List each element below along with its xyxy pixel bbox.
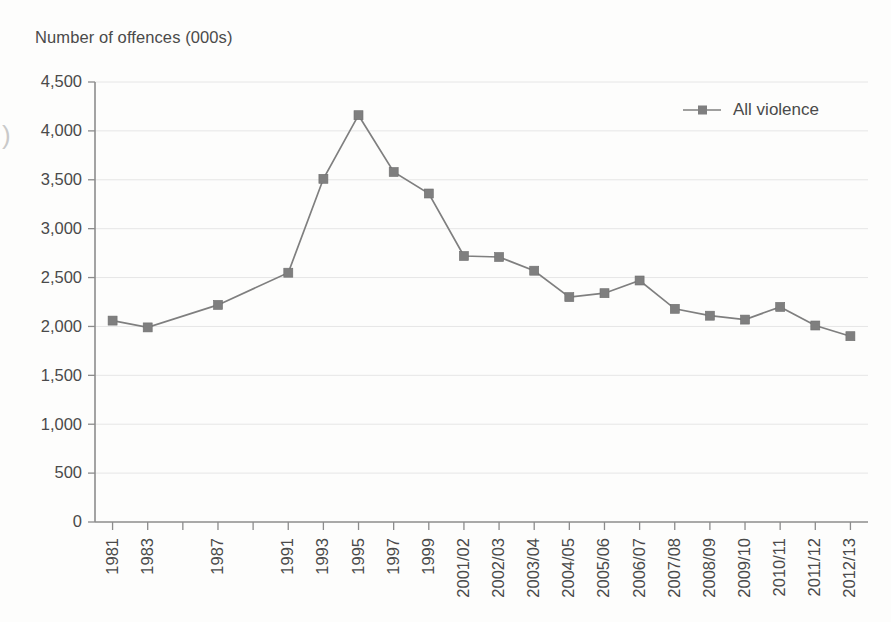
chart-page: ) Number of offences (000s) 05001,0001,5… <box>0 0 891 622</box>
x-tick-label: 2004/05 <box>559 538 577 598</box>
data-point-marker <box>459 252 468 261</box>
data-point-marker <box>776 302 785 311</box>
x-tick-label: 1981 <box>103 538 121 575</box>
x-tick-labels: 198119831987199119931995199719992001/022… <box>103 538 859 598</box>
data-point-marker <box>565 293 574 302</box>
data-point-marker <box>319 174 328 183</box>
y-tick-label: 2,500 <box>41 268 82 286</box>
x-tick-label: 2005/06 <box>594 538 612 598</box>
chart-legend: All violence <box>683 100 819 119</box>
data-point-marker <box>495 253 504 262</box>
x-tick-label: 1993 <box>313 538 331 575</box>
x-tick-label: 2001/02 <box>454 538 472 598</box>
data-point-marker <box>424 189 433 198</box>
y-tick-marks <box>88 82 95 522</box>
x-tick-label: 2008/09 <box>700 538 718 598</box>
data-point-marker <box>670 304 679 313</box>
data-point-marker <box>846 332 855 341</box>
y-tick-label: 0 <box>73 512 82 530</box>
line-chart: 05001,0001,5002,0002,5003,0003,5004,0004… <box>0 0 891 622</box>
x-tick-label: 2002/03 <box>489 538 507 598</box>
y-tick-label: 1,000 <box>41 415 82 433</box>
x-tick-label: 2011/12 <box>805 538 823 596</box>
legend-label: All violence <box>733 100 819 119</box>
data-point-marker <box>108 316 117 325</box>
x-tick-label: 2009/10 <box>735 538 753 598</box>
x-tick-label: 2006/07 <box>630 538 648 598</box>
gridlines <box>95 82 868 473</box>
data-point-marker <box>143 323 152 332</box>
data-series-group <box>108 111 855 341</box>
x-tick-label: 2007/08 <box>665 538 683 598</box>
x-tick-label: 1997 <box>384 538 402 575</box>
x-tick-marks <box>113 522 851 530</box>
x-tick-label: 1987 <box>208 538 226 575</box>
data-point-marker <box>600 289 609 298</box>
y-tick-labels: 05001,0001,5002,0002,5003,0003,5004,0004… <box>41 72 82 530</box>
x-tick-label: 1999 <box>419 538 437 575</box>
data-point-marker <box>530 266 539 275</box>
y-tick-label: 3,500 <box>41 170 82 188</box>
x-tick-label: 1983 <box>138 538 156 575</box>
y-tick-label: 3,000 <box>41 219 82 237</box>
data-point-marker <box>811 321 820 330</box>
y-tick-label: 4,500 <box>41 72 82 90</box>
series-line-1 <box>113 115 851 336</box>
y-tick-label: 1,500 <box>41 366 82 384</box>
data-point-marker <box>214 300 223 309</box>
x-tick-label: 2003/04 <box>524 538 542 598</box>
x-tick-label: 1995 <box>349 538 367 575</box>
x-tick-label: 1991 <box>278 538 296 575</box>
data-point-marker <box>354 111 363 120</box>
data-point-marker <box>284 268 293 277</box>
y-tick-label: 500 <box>54 463 82 481</box>
data-point-marker <box>741 315 750 324</box>
y-tick-label: 4,000 <box>41 121 82 139</box>
legend-marker <box>698 106 707 115</box>
x-tick-label: 2010/11 <box>770 538 788 596</box>
data-point-marker <box>635 276 644 285</box>
data-point-marker <box>705 311 714 320</box>
plot-area: 05001,0001,5002,0002,5003,0003,5004,0004… <box>0 0 891 622</box>
data-point-marker <box>389 168 398 177</box>
y-tick-label: 2,000 <box>41 317 82 335</box>
x-tick-label: 2012/13 <box>840 538 858 598</box>
